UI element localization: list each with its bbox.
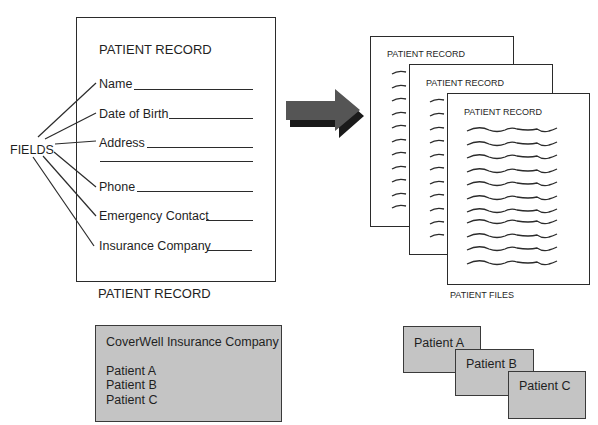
insurance-company-name: CoverWell Insurance Company (106, 335, 279, 349)
patient-card-a-label: Patient A (414, 336, 464, 350)
patient-card-b-label: Patient B (466, 357, 517, 371)
insurance-patient-a: Patient A (106, 364, 156, 378)
patient-files-caption: PATIENT FILES (450, 290, 514, 300)
patient-card-c-label: Patient C (519, 379, 570, 393)
insurance-patient-c: Patient C (106, 393, 157, 407)
insurance-patient-b: Patient B (106, 378, 157, 392)
